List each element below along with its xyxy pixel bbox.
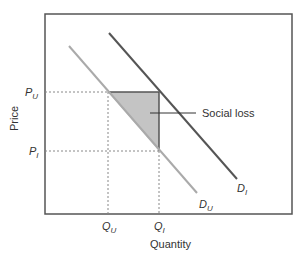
y-axis-title: Price [8,106,20,131]
plot-frame [45,14,292,214]
diagram-canvas: Social loss PU PI QU QI DI DU Quantity P… [0,0,302,259]
social-loss-label: Social loss [202,107,255,119]
pi-label: PI [29,145,39,160]
di-label: DI [237,182,248,197]
uninformed-demand-curve [69,46,197,193]
x-axis-title: Quantity [150,238,191,250]
pu-label: PU [25,86,38,101]
qi-label: QI [154,220,166,235]
du-label: DU [199,198,213,213]
qu-label: QU [102,220,117,235]
